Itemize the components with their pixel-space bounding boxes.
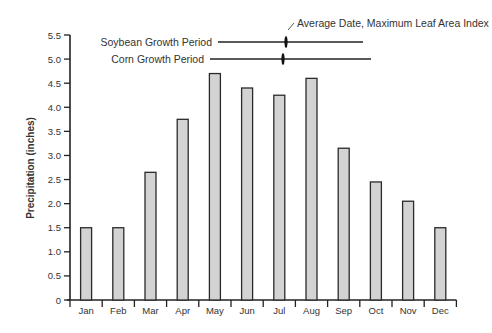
bar-aug	[306, 78, 317, 300]
corn-max-lai-marker	[281, 53, 284, 65]
bar-feb	[113, 228, 124, 300]
y-tick-label: 3.5	[48, 126, 61, 137]
x-tick-label: Apr	[175, 305, 190, 316]
x-tick-label: Mar	[142, 305, 158, 316]
y-axis-label: Precipitation (inches)	[25, 117, 36, 219]
bar-jul	[274, 95, 285, 300]
x-tick-label: May	[206, 305, 224, 316]
y-tick-label: 5.0	[48, 54, 61, 65]
x-tick-label: Aug	[303, 305, 320, 316]
x-tick-label: Oct	[369, 305, 384, 316]
x-tick-label: Jan	[78, 305, 93, 316]
y-tick-label: 1.5	[48, 222, 61, 233]
y-tick-label: 2.0	[48, 198, 61, 209]
bars	[81, 74, 446, 300]
x-axis: JanFebMarAprMayJunJulAugSepOctNovDec	[67, 300, 456, 316]
soybean-growth-period-label: Soybean Growth Period	[101, 36, 213, 48]
y-tick-label: 0	[56, 295, 61, 306]
bar-mar	[145, 172, 156, 300]
bar-oct	[370, 182, 381, 300]
max-lai-callout-label: Average Date, Maximum Leaf Area Index	[297, 17, 490, 29]
soybean-max-lai-marker	[284, 36, 287, 48]
x-tick-label: Dec	[432, 305, 449, 316]
y-tick-label: 4.5	[48, 78, 61, 89]
bar-sep	[338, 148, 349, 300]
y-tick-label: 0.5	[48, 270, 61, 281]
bar-apr	[177, 119, 188, 300]
bar-nov	[403, 201, 414, 300]
y-tick-label: 4.0	[48, 102, 61, 113]
x-tick-label: Feb	[110, 305, 126, 316]
x-tick-label: Sep	[335, 305, 352, 316]
y-tick-label: 2.5	[48, 174, 61, 185]
y-tick-label: 5.5	[48, 30, 61, 41]
bar-jan	[81, 228, 92, 300]
precipitation-bar-chart: 00.51.01.52.02.53.03.54.04.55.05.5 JanFe…	[0, 0, 492, 333]
corn-growth-period-label: Corn Growth Period	[111, 53, 204, 65]
y-axis: 00.51.01.52.02.53.03.54.04.55.05.5	[48, 30, 70, 306]
x-tick-label: Jul	[273, 305, 285, 316]
bar-may	[209, 74, 220, 300]
x-tick-label: Jun	[239, 305, 254, 316]
growth-period-annotations: Soybean Growth Period Corn Growth Period…	[101, 17, 490, 65]
x-tick-label: Nov	[400, 305, 417, 316]
y-tick-label: 1.0	[48, 246, 61, 257]
bar-dec	[435, 228, 446, 300]
bar-jun	[242, 88, 253, 300]
y-tick-label: 3.0	[48, 150, 61, 161]
max-lai-callout-leader	[288, 23, 294, 30]
